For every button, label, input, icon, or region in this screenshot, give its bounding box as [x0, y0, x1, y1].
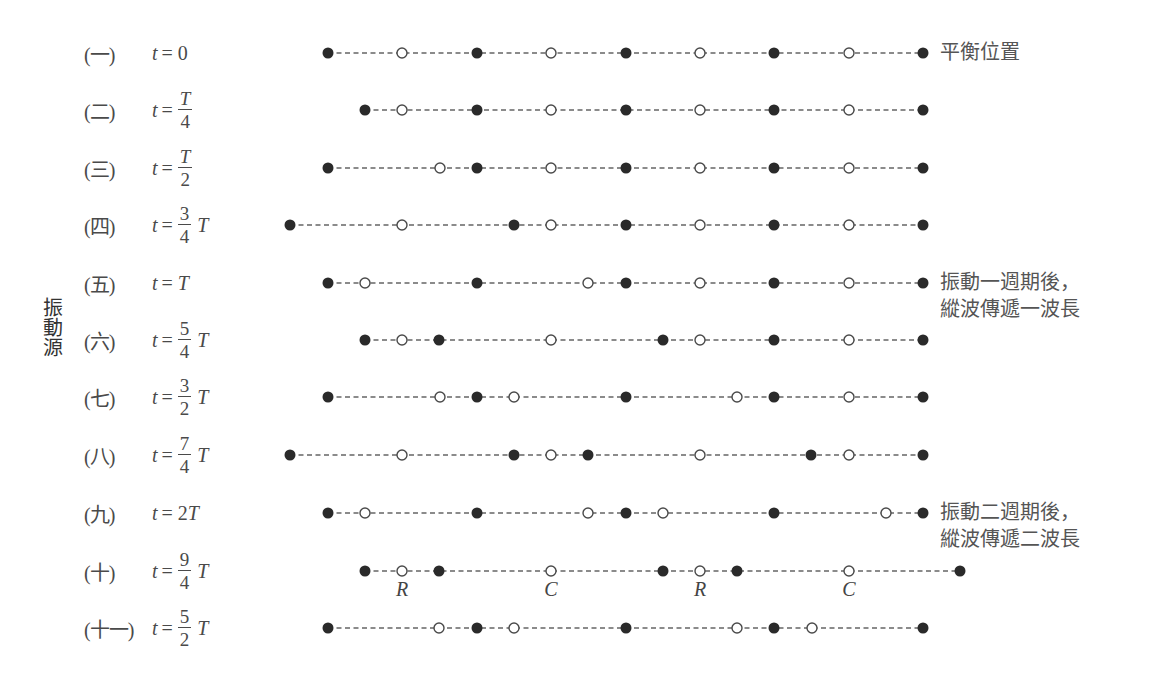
open-particle-icon	[844, 335, 854, 345]
row-number: (三)	[84, 154, 152, 183]
time-fraction: 54	[178, 319, 192, 361]
equals-sign: =	[162, 99, 173, 122]
open-particle-icon	[732, 623, 742, 633]
time-symbol: t	[152, 214, 158, 237]
open-particle-icon	[397, 450, 407, 460]
time-label: (六)t=54T	[84, 320, 208, 360]
compression-label: C	[842, 578, 855, 601]
filled-particle-icon	[360, 335, 371, 346]
time-fraction: T4	[178, 89, 193, 131]
filled-particle-icon	[472, 392, 483, 403]
rarefaction-label: R	[694, 578, 706, 601]
filled-particle-icon	[472, 163, 483, 174]
particle-row	[323, 623, 929, 634]
particle-row	[323, 392, 929, 403]
open-particle-icon	[434, 623, 444, 633]
open-particle-icon	[546, 335, 556, 345]
time-fraction: 94	[178, 550, 192, 592]
period-symbol: T	[197, 617, 208, 640]
filled-particle-icon	[509, 220, 520, 231]
open-particle-icon	[695, 105, 705, 115]
open-particle-icon	[583, 508, 593, 518]
filled-particle-icon	[323, 392, 334, 403]
equals-sign: =	[162, 502, 173, 525]
open-particle-icon	[732, 392, 742, 402]
time-label: (五)t=T	[84, 263, 189, 303]
row-number: (八)	[84, 441, 152, 470]
filled-particle-icon	[918, 278, 929, 289]
equals-sign: =	[162, 617, 173, 640]
filled-particle-icon	[434, 335, 445, 346]
filled-particle-icon	[769, 508, 780, 519]
equals-sign: =	[162, 560, 173, 583]
time-symbol: t	[152, 444, 158, 467]
numerator: 3	[178, 376, 192, 397]
denominator: 4	[180, 571, 190, 592]
open-particle-icon	[546, 48, 556, 58]
row-number: (五)	[84, 269, 152, 298]
equals-sign: =	[162, 386, 173, 409]
filled-particle-icon	[323, 508, 334, 519]
open-particle-icon	[397, 220, 407, 230]
denominator: 2	[180, 628, 190, 649]
row-number: (七)	[84, 383, 152, 412]
particle-row	[323, 48, 929, 59]
time-symbol: t	[152, 99, 158, 122]
row-number: (二)	[84, 96, 152, 125]
filled-particle-icon	[621, 105, 632, 116]
time-symbol: t	[152, 502, 158, 525]
filled-particle-icon	[472, 508, 483, 519]
filled-particle-icon	[769, 48, 780, 59]
open-particle-icon	[807, 623, 817, 633]
filled-particle-icon	[769, 278, 780, 289]
time-label: (一)t=0	[84, 33, 188, 73]
vibration-source-text: 振動源	[38, 297, 63, 357]
particle-row	[323, 278, 929, 289]
filled-particle-icon	[621, 220, 632, 231]
filled-particle-icon	[360, 105, 371, 116]
equals-sign: =	[162, 42, 173, 65]
numerator: 5	[178, 319, 192, 340]
row-number: (一)	[84, 39, 152, 68]
filled-particle-icon	[918, 48, 929, 59]
time-label: (十一)t=52T	[84, 608, 208, 648]
open-particle-icon	[695, 335, 705, 345]
filled-particle-icon	[323, 623, 334, 634]
longitudinal-wave-diagram: 振動源 (一)t=0(二)t=T4(三)t=T2(四)t=34T(五)t=T(六…	[0, 0, 1161, 697]
open-particle-icon	[397, 48, 407, 58]
open-particle-icon	[546, 105, 556, 115]
open-particle-icon	[844, 105, 854, 115]
open-particle-icon	[509, 623, 519, 633]
particle-row	[360, 105, 929, 116]
filled-particle-icon	[285, 220, 296, 231]
particle-row	[323, 508, 929, 519]
filled-particle-icon	[769, 335, 780, 346]
denominator: 2	[180, 168, 190, 189]
filled-particle-icon	[621, 163, 632, 174]
filled-particle-icon	[323, 48, 334, 59]
open-particle-icon	[583, 278, 593, 288]
filled-particle-icon	[918, 392, 929, 403]
equals-sign: =	[162, 329, 173, 352]
open-particle-icon	[658, 508, 668, 518]
open-particle-icon	[360, 508, 370, 518]
time-label: (九)t= 2T	[84, 493, 199, 533]
equals-sign: =	[162, 444, 173, 467]
equals-sign: =	[162, 272, 173, 295]
numerator: 7	[178, 434, 192, 455]
filled-particle-icon	[472, 278, 483, 289]
filled-particle-icon	[769, 623, 780, 634]
numerator: 3	[178, 204, 192, 225]
note-line: 振動二週期後，	[940, 499, 1080, 526]
filled-particle-icon	[621, 392, 632, 403]
filled-particle-icon	[434, 566, 445, 577]
row-number: (十一)	[84, 614, 152, 643]
open-particle-icon	[695, 163, 705, 173]
time-fraction: 52	[178, 607, 192, 649]
open-particle-icon	[844, 450, 854, 460]
particle-row	[360, 335, 929, 346]
numerator: T	[178, 147, 193, 168]
filled-particle-icon	[918, 623, 929, 634]
row-number: (四)	[84, 211, 152, 240]
filled-particle-icon	[918, 220, 929, 231]
